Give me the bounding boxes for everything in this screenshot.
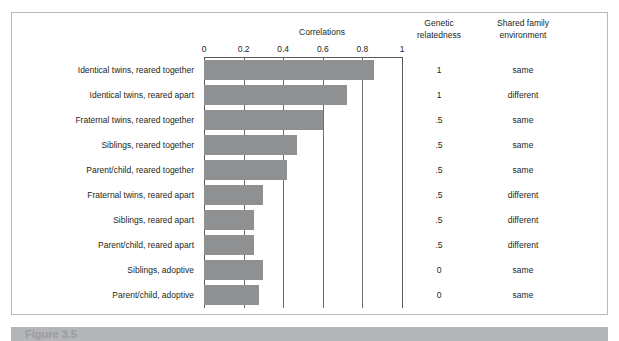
bar	[204, 235, 254, 255]
column-header-genetic-relatedness: Genetic relatedness	[408, 18, 470, 41]
category-label: Siblings, adoptive	[127, 260, 194, 280]
column-header-shared-family-environment-line1: Shared family	[478, 18, 568, 30]
table-cell: .5	[408, 185, 470, 205]
gridline-1	[402, 57, 403, 308]
bar	[204, 160, 287, 180]
bar	[204, 110, 323, 130]
x-tick-label-2: 0.4	[277, 44, 289, 54]
chart-title: Correlations	[232, 27, 412, 37]
bar	[204, 85, 347, 105]
x-tick-label-5: 1	[400, 44, 405, 54]
column-header-genetic-relatedness-line2: relatedness	[408, 30, 470, 42]
figure-frame: Correlations Genetic relatedness Shared …	[11, 12, 608, 315]
column-header-shared-family-environment-line2: environment	[478, 30, 568, 42]
category-label: Identical twins, reared together	[78, 60, 194, 80]
table-cell: different	[478, 235, 568, 255]
table-cell: same	[478, 60, 568, 80]
table-cell: 1	[408, 60, 470, 80]
x-tick-label-3: 0.6	[317, 44, 329, 54]
table-cell: same	[478, 160, 568, 180]
category-label: Siblings, reared together	[101, 135, 194, 155]
bar-series	[204, 58, 402, 308]
table-cell: .5	[408, 235, 470, 255]
table-cell: .5	[408, 210, 470, 230]
bar	[204, 135, 297, 155]
figure-caption: Figure 3.5	[25, 328, 77, 340]
table-cell: 1	[408, 85, 470, 105]
bar	[204, 210, 254, 230]
x-tick-label-0: 0	[202, 44, 207, 54]
category-label: Fraternal twins, reared apart	[87, 185, 194, 205]
table-cell: same	[478, 285, 568, 305]
x-axis-tick-labels: 00.20.40.60.81	[12, 44, 607, 57]
table-cell: .5	[408, 110, 470, 130]
category-label: Fraternal twins, reared together	[75, 110, 194, 130]
table-cell: same	[478, 260, 568, 280]
bar	[204, 185, 263, 205]
x-tick-label-1: 0.2	[238, 44, 250, 54]
table-cell: same	[478, 110, 568, 130]
table-cell: .5	[408, 160, 470, 180]
bar	[204, 60, 374, 80]
table-cell: different	[478, 185, 568, 205]
bar	[204, 260, 263, 280]
figure-page: Correlations Genetic relatedness Shared …	[0, 0, 619, 341]
x-tick-label-4: 0.8	[356, 44, 368, 54]
category-label: Parent/child, reared apart	[98, 235, 194, 255]
table-cell: different	[478, 85, 568, 105]
caption-band: Figure 3.5	[11, 327, 608, 341]
column-header-genetic-relatedness-line1: Genetic	[408, 18, 470, 30]
table-cell: same	[478, 135, 568, 155]
category-label: Identical twins, reared apart	[90, 85, 194, 105]
category-label: Siblings, reared apart	[113, 210, 194, 230]
table-cell: 0	[408, 260, 470, 280]
bar	[204, 285, 259, 305]
table-cell: .5	[408, 135, 470, 155]
table-cell: 0	[408, 285, 470, 305]
category-label: Parent/child, reared together	[86, 160, 194, 180]
category-label: Parent/child, adoptive	[112, 285, 194, 305]
table-cell: different	[478, 210, 568, 230]
column-header-shared-family-environment: Shared family environment	[478, 18, 568, 41]
